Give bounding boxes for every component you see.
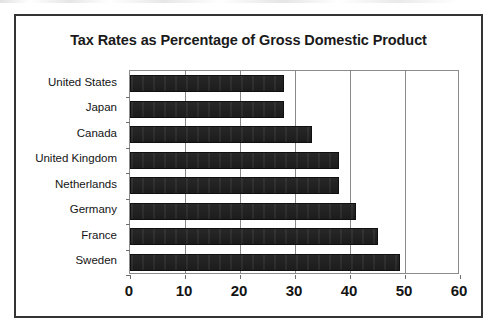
bar	[130, 75, 284, 92]
x-tick-60	[460, 275, 461, 279]
bar	[130, 101, 284, 118]
category-label-netherlands: Netherlands	[0, 178, 117, 190]
x-tick-40	[350, 275, 351, 279]
y-tick	[126, 173, 130, 174]
y-tick	[126, 122, 130, 123]
x-axis-label-20: 20	[219, 282, 259, 299]
x-tick-20	[240, 275, 241, 279]
x-axis-label-10: 10	[164, 282, 204, 299]
category-label-canada: Canada	[0, 127, 117, 139]
category-label-germany: Germany	[0, 203, 117, 215]
bar	[130, 254, 400, 271]
bar	[130, 228, 378, 245]
y-tick	[126, 275, 130, 276]
plot-area	[129, 70, 459, 274]
x-axis-label-50: 50	[384, 282, 424, 299]
bar	[130, 203, 356, 220]
x-axis-label-30: 30	[274, 282, 314, 299]
category-label-sweden: Sweden	[0, 254, 117, 266]
x-tick-30	[295, 275, 296, 279]
x-axis-label-60: 60	[439, 282, 479, 299]
category-label-united-states: United States	[0, 76, 117, 88]
x-axis-label-0: 0	[109, 282, 149, 299]
category-label-japan: Japan	[0, 101, 117, 113]
x-axis-label-40: 40	[329, 282, 369, 299]
y-tick	[126, 224, 130, 225]
y-tick	[126, 199, 130, 200]
x-tick-0	[130, 275, 131, 279]
y-tick	[126, 250, 130, 251]
scan-artifact	[0, 0, 497, 3]
bar	[130, 126, 312, 143]
x-tick-50	[405, 275, 406, 279]
bar	[130, 177, 339, 194]
bar	[130, 152, 339, 169]
x-tick-10	[185, 275, 186, 279]
category-label-united-kingdom: United Kingdom	[0, 152, 117, 164]
chart-frame: Tax Rates as Percentage of Gross Domesti…	[14, 14, 483, 318]
gridline-50	[405, 71, 406, 273]
y-tick	[126, 148, 130, 149]
chart-title: Tax Rates as Percentage of Gross Domesti…	[16, 32, 481, 48]
y-tick	[126, 97, 130, 98]
category-label-france: France	[0, 229, 117, 241]
